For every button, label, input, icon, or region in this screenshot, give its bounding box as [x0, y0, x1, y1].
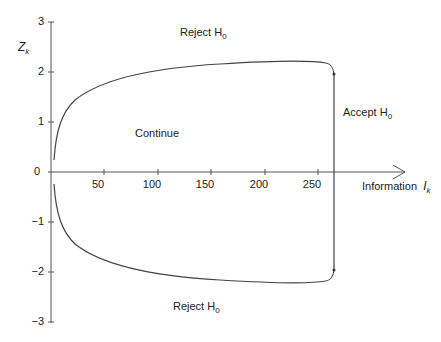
reject-h0-upper-label: Reject H0	[180, 26, 227, 41]
x-tick-label: 100	[137, 178, 167, 190]
y-tick-label: 3	[24, 15, 44, 27]
y-tick-label: 1	[24, 115, 44, 127]
x-tick-label: 150	[190, 178, 220, 190]
y-tick-label: 0	[20, 165, 40, 177]
x-tick-label: 50	[83, 178, 113, 190]
x-tick-label: 250	[297, 178, 327, 190]
x-tick-label: 200	[244, 178, 274, 190]
x-axis-label: Information Ik	[362, 179, 431, 195]
chart-canvas	[0, 0, 441, 342]
upper-boundary-curve	[54, 61, 334, 160]
y-tick-label: −3	[24, 315, 44, 327]
continue-label: Continue	[135, 127, 179, 139]
reject-h0-lower-label: Reject H0	[173, 300, 220, 315]
lower-boundary-curve	[54, 184, 334, 283]
y-tick-label: −1	[24, 215, 44, 227]
y-tick-label: −2	[24, 265, 44, 277]
accept-h0-label: Accept H0	[343, 106, 392, 121]
y-tick-label: 2	[24, 65, 44, 77]
y-axis-label: Zk	[18, 40, 29, 56]
